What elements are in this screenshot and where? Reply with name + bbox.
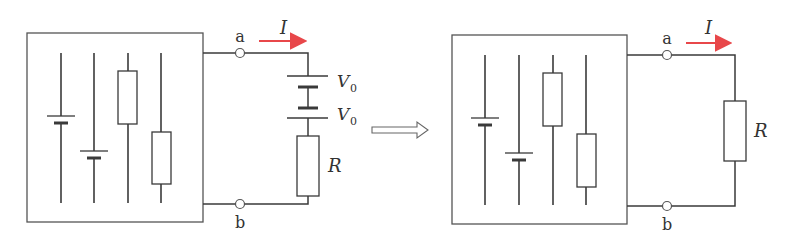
- right-resistor-label: R: [753, 120, 768, 141]
- left-resistor-label: R: [327, 155, 342, 176]
- right-internal-battery-1: [471, 55, 499, 205]
- left-source-2-label: V: [337, 104, 351, 124]
- right-network-box: [452, 35, 627, 224]
- left-internal-resistor-1: [118, 53, 137, 203]
- left-internal-battery-1: [47, 53, 75, 203]
- left-network-box: [27, 33, 203, 222]
- right-internal-resistor-2: [577, 55, 596, 205]
- equivalent-transform-arrow: [372, 122, 428, 138]
- left-external-battery-1: [287, 76, 328, 87]
- left-terminal-a-label: a: [235, 27, 245, 46]
- left-external-resistor: [297, 136, 319, 196]
- right-terminal-b-label: b: [662, 215, 672, 234]
- left-current-label: I: [279, 17, 288, 38]
- left-terminal-a: [236, 49, 245, 58]
- right-internal-battery-2: [505, 55, 533, 205]
- left-terminal-b-label: b: [235, 213, 245, 232]
- right-circuit: a b I R: [452, 17, 768, 234]
- left-internal-battery-2: [80, 53, 108, 203]
- circuit-diagram: a b I V 0 V 0 R: [0, 0, 789, 252]
- right-current-label: I: [704, 17, 713, 38]
- left-internal-resistor-2: [152, 53, 171, 203]
- right-terminal-a-label: a: [662, 29, 672, 48]
- right-external-resistor: [724, 101, 746, 161]
- left-terminal-b: [236, 200, 245, 209]
- left-source-1-label: V: [337, 71, 351, 91]
- right-external-wiring: [627, 55, 735, 206]
- right-terminal-a: [663, 51, 672, 60]
- right-terminal-b: [663, 202, 672, 211]
- left-circuit: a b I V 0 V 0 R: [27, 17, 357, 232]
- left-source-1-sub: 0: [350, 82, 357, 95]
- right-internal-resistor-1: [543, 55, 562, 205]
- left-external-battery-2: [287, 108, 328, 118]
- left-source-2-sub: 0: [350, 115, 357, 128]
